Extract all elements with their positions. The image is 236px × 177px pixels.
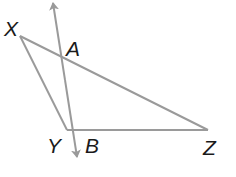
geometry-diagram: X A Y B Z — [0, 0, 236, 177]
line-ab — [53, 3, 65, 80]
label-z: Z — [203, 137, 216, 158]
label-a: A — [66, 38, 80, 59]
label-y: Y — [47, 135, 61, 156]
line-ab-lower — [65, 80, 77, 157]
diagram-figure — [0, 0, 236, 177]
label-b: B — [85, 135, 99, 156]
segment-xz — [20, 36, 208, 130]
label-x: X — [4, 18, 18, 39]
